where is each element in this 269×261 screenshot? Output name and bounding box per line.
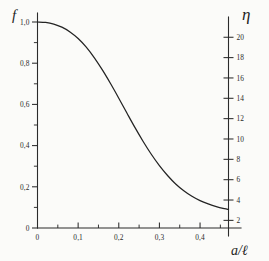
y-tick-label: 0	[26, 224, 30, 233]
y-tick-label: 1,0	[20, 18, 30, 27]
data-curve-f	[38, 22, 229, 209]
chart-figure: 00,20,40,60,81,000,10,20,30,424681012141…	[0, 0, 269, 261]
y-tick-label: 0,4	[20, 141, 30, 150]
y2-tick-label: 12	[237, 114, 245, 123]
y-tick-label: 0,6	[20, 100, 30, 109]
y2-tick-label: 14	[237, 94, 245, 103]
x-tick-label: 0,3	[155, 233, 165, 242]
y-tick-label: 0,2	[20, 183, 30, 192]
x-tick-label: 0,1	[73, 233, 83, 242]
x-tick-label: 0	[36, 233, 40, 242]
y-axis-title-f: f	[12, 7, 18, 23]
y2-tick-label: 8	[237, 155, 241, 164]
tick-labels-group: 00,20,40,60,81,000,10,20,30,424681012141…	[20, 18, 244, 242]
y-tick-label: 0,8	[20, 59, 30, 68]
y2-tick-label: 2	[237, 216, 241, 225]
ticks-group	[32, 22, 234, 228]
y2-tick-label: 10	[237, 135, 245, 144]
y2-tick-label: 18	[237, 53, 245, 62]
y2-tick-label: 6	[237, 175, 241, 184]
x-tick-label: 0,2	[114, 233, 124, 242]
y2-tick-label: 16	[237, 74, 245, 83]
y2-axis-title-eta: η	[242, 5, 250, 24]
x-axis-title: a/ℓ	[231, 243, 248, 258]
x-tick-label: 0,4	[195, 233, 205, 242]
plot-canvas: 00,20,40,60,81,000,10,20,30,424681012141…	[0, 0, 269, 261]
y2-tick-label: 20	[237, 33, 245, 42]
curve-group	[38, 22, 229, 209]
axes-group	[38, 13, 242, 236]
y2-tick-label: 4	[237, 196, 241, 205]
